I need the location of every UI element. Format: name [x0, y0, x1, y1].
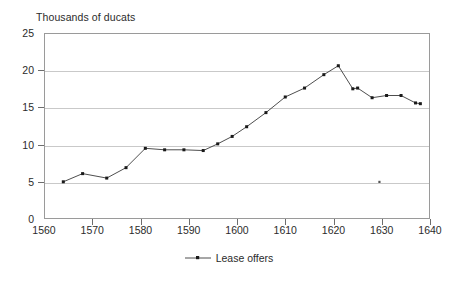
data-point-1602 [245, 125, 248, 128]
series-markers-lease-offers [62, 64, 422, 183]
data-point-1614 [303, 87, 306, 90]
chart-legend: Lease offers [0, 252, 458, 264]
data-point-1628 [371, 96, 374, 99]
x-tick-label-1630: 1630 [359, 224, 405, 236]
x-tick-mark-1620 [334, 219, 335, 225]
data-point-1621 [337, 64, 340, 67]
y-tick-label-25: 25 [0, 27, 34, 39]
x-tick-mark-1580 [141, 219, 142, 225]
series-line-lease-offers [63, 66, 420, 182]
data-point-1631 [385, 94, 388, 97]
x-tick-mark-1610 [285, 219, 286, 225]
data-point-1589 [182, 148, 185, 151]
chart-figure: Thousands of ducats 0510152025 156015701… [0, 0, 458, 289]
data-point-1564 [62, 180, 65, 183]
x-tick-label-1560: 1560 [21, 224, 67, 236]
data-point-1610 [284, 95, 287, 98]
data-series-layer [44, 33, 430, 219]
data-point-1618 [322, 73, 325, 76]
annotation-marks [378, 181, 380, 183]
y-tick-label-20: 20 [0, 64, 34, 76]
data-point-1585 [163, 148, 166, 151]
data-point-1624 [351, 87, 354, 90]
data-point-1573 [105, 177, 108, 180]
data-point-1625 [356, 87, 359, 90]
x-tick-label-1570: 1570 [69, 224, 115, 236]
x-tick-label-1640: 1640 [407, 224, 453, 236]
y-tick-label-5: 5 [0, 176, 34, 188]
legend-entry-lease-offers[interactable]: Lease offers [185, 252, 274, 264]
x-tick-label-1580: 1580 [118, 224, 164, 236]
x-tick-mark-1570 [92, 219, 93, 225]
y-tick-label-10: 10 [0, 139, 34, 151]
data-point-1599 [231, 135, 234, 138]
data-point-1596 [216, 142, 219, 145]
data-point-1593 [202, 149, 205, 152]
x-tick-mark-1590 [189, 219, 190, 225]
x-tick-mark-1600 [237, 219, 238, 225]
x-tick-mark-1640 [430, 219, 431, 225]
data-point-1638 [419, 102, 422, 105]
data-point-1606 [264, 111, 267, 114]
x-tick-label-1610: 1610 [262, 224, 308, 236]
x-tick-label-1600: 1600 [214, 224, 260, 236]
legend-label-lease-offers: Lease offers [216, 252, 274, 264]
data-point-1634 [400, 94, 403, 97]
stray-mark [378, 181, 380, 183]
x-tick-label-1590: 1590 [166, 224, 212, 236]
data-point-1637 [414, 101, 417, 104]
data-point-1568 [81, 172, 84, 175]
legend-line-marker-icon [185, 253, 211, 263]
data-point-1577 [125, 166, 128, 169]
x-tick-label-1620: 1620 [311, 224, 357, 236]
chart-axis-title: Thousands of ducats [36, 11, 135, 23]
data-point-1581 [144, 147, 147, 150]
x-tick-mark-1630 [382, 219, 383, 225]
y-tick-label-15: 15 [0, 101, 34, 113]
